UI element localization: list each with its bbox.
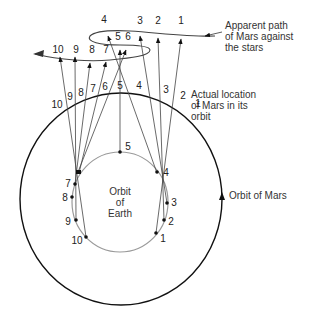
- mars-number: 4: [136, 81, 142, 91]
- mars-orbit-direction-arrow-icon: [219, 192, 225, 200]
- mars-number: 2: [180, 91, 186, 101]
- label-orbit-of-earth: Orbit of Earth: [100, 186, 140, 219]
- mars-number: 8: [78, 88, 84, 98]
- sky-number: 10: [52, 45, 63, 55]
- mars-number: 10: [51, 100, 62, 110]
- sky-number: 5: [115, 32, 121, 42]
- mars-number: 1: [195, 99, 201, 109]
- mars-number: 5: [117, 81, 123, 91]
- earth-number: 9: [65, 217, 71, 227]
- mars-number: 9: [67, 92, 73, 102]
- sky-number: 3: [137, 16, 143, 26]
- sky-number: 1: [178, 16, 184, 26]
- label-pointer-apparent: [205, 32, 222, 36]
- earth-number: 2: [168, 217, 174, 227]
- earth-number: 3: [171, 198, 177, 208]
- earth-number: 5: [125, 142, 131, 152]
- earth-number: 4: [163, 168, 169, 178]
- label-apparent-path: Apparent path of Mars against the stars: [225, 20, 293, 53]
- mars-number: 6: [102, 82, 108, 92]
- sky-number: 9: [73, 45, 79, 55]
- sky-number: 4: [101, 15, 107, 25]
- mars-number: 7: [90, 84, 96, 94]
- sky-number: 8: [89, 45, 95, 55]
- sky-number: 7: [103, 45, 109, 55]
- earth-number: 8: [62, 193, 68, 203]
- sky-number: 2: [155, 16, 161, 26]
- earth-number: 1: [160, 234, 166, 244]
- earth-number: 7: [65, 179, 71, 189]
- earth-number: 10: [71, 236, 82, 246]
- mars-number: 3: [163, 85, 169, 95]
- apparent-path-arrow-icon: [33, 50, 44, 57]
- sky-number: 6: [125, 32, 131, 42]
- label-orbit-of-mars: Orbit of Mars: [229, 190, 287, 201]
